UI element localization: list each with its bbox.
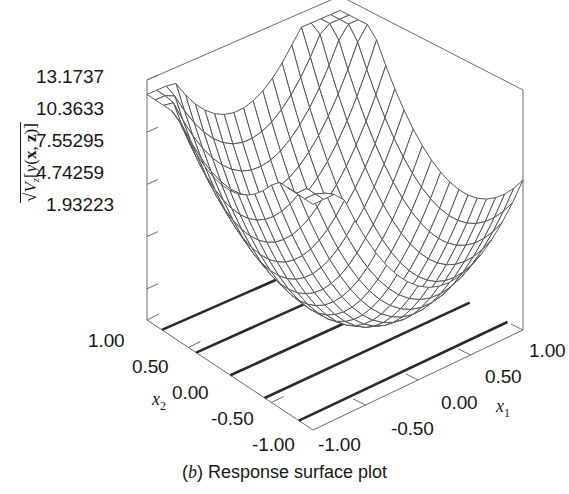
x2-tick-label-1: 0.50 — [132, 356, 169, 378]
x1-tick-label-3: -0.50 — [391, 418, 434, 440]
z-axis-v-subscript: z — [29, 178, 41, 182]
response-surface-plot: 13.1737 10.3633 7.55295 4.74259 1.93223 … — [0, 0, 569, 494]
x1-tick-label-2: 0.00 — [441, 392, 478, 414]
z-axis-paren-open: ( — [21, 159, 40, 165]
z-axis-bracket-open: [ — [21, 172, 40, 178]
z-tick-label-4: 1.93223 — [46, 194, 114, 216]
x2-axis-subscript: 2 — [160, 399, 166, 413]
z-axis-comma: , — [21, 142, 40, 151]
x1-tick-label-0: 1.00 — [529, 340, 566, 362]
x2-tick-label-2: 0.00 — [172, 382, 209, 404]
z-axis-tick — [147, 75, 158, 80]
x2-axis-title: x2 — [152, 389, 166, 414]
x1-axis-title: x1 — [496, 396, 510, 421]
z-axis-x-bold: x — [21, 151, 40, 160]
x1-axis-tick — [406, 374, 418, 380]
x1-tick-label-4: -1.00 — [318, 434, 361, 456]
z-axis-tick — [147, 232, 158, 237]
caption-letter: b — [188, 462, 197, 482]
x2-axis-tick — [272, 397, 284, 403]
x2-axis-tick — [147, 314, 159, 320]
z-axis-paren-close: ) — [21, 129, 40, 135]
z-tick-label-2: 7.55295 — [36, 130, 104, 152]
caption-text: Response surface plot — [208, 462, 387, 482]
z-axis-tick — [147, 179, 158, 184]
x1-axis-tick — [511, 324, 523, 330]
caption-paren-close: ) — [197, 462, 203, 482]
x2-axis-name: x — [152, 389, 160, 409]
figure-caption: (b) Response surface plot — [0, 462, 569, 483]
z-tick-label-0: 13.1737 — [36, 66, 104, 88]
z-axis-tick — [147, 127, 158, 132]
z-axis-v: V — [21, 182, 40, 192]
x2-axis-tick — [189, 342, 201, 348]
z-tick-label-3: 4.74259 — [36, 162, 104, 184]
z-axis-title: √Vz[y(x, z)] — [21, 97, 41, 227]
response-surface-mesh — [147, 10, 523, 327]
x2-tick-label-3: -0.50 — [211, 408, 254, 430]
z-tick-label-1: 10.3633 — [36, 98, 104, 120]
z-axis-y: y — [21, 165, 40, 173]
z-axis-radical: √ — [21, 193, 40, 202]
x1-axis-tick — [459, 349, 471, 355]
z-axis-bracket-close: ] — [21, 123, 40, 129]
z-axis-z-bold: z — [21, 134, 40, 142]
x1-axis-tick — [354, 399, 366, 405]
x1-axis-name: x — [496, 396, 504, 416]
x2-tick-label-0: 1.00 — [88, 330, 125, 352]
x2-tick-label-4: -1.00 — [252, 434, 295, 456]
x1-tick-label-1: 0.50 — [485, 366, 522, 388]
x1-axis-subscript: 1 — [504, 406, 510, 420]
z-axis-tick — [147, 284, 158, 289]
